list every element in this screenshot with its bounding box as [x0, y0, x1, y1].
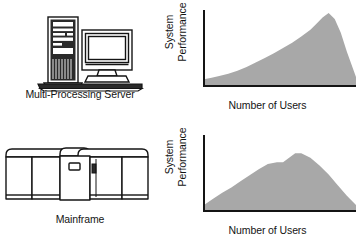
area-series-server — [204, 13, 356, 86]
device-pane-mainframe: Mainframe — [0, 125, 160, 249]
chart-mainframe: System Performance Number of Users — [160, 125, 359, 249]
diagram-row-server: Multi-Processing Server System Performan… — [0, 0, 359, 124]
diagram-row-mainframe: Mainframe System Performance Number of U… — [0, 125, 359, 249]
mainframe-cabinets-icon — [0, 125, 160, 225]
y-axis-label-line1: System — [163, 0, 176, 75]
chart-plot-area-server — [190, 4, 356, 96]
area-series-mainframe — [204, 153, 356, 211]
y-axis-label-line2: Performance — [176, 0, 189, 75]
y-axis-label-line2: Performance — [176, 114, 189, 200]
y-axis-label-line1: System — [163, 114, 176, 200]
chart-x-axis-label-mainframe: Number of Users — [180, 224, 355, 236]
device-pane-server: Multi-Processing Server — [0, 0, 160, 124]
chart-plot-area-mainframe — [190, 129, 356, 221]
comparison-diagram: Multi-Processing Server System Performan… — [0, 0, 359, 249]
device-caption-mainframe: Mainframe — [0, 213, 160, 225]
tower-server-and-monitor-icon — [0, 0, 160, 100]
chart-server: System Performance Number of Users — [160, 0, 359, 124]
chart-x-axis-label-server: Number of Users — [180, 99, 355, 111]
chart-y-axis-label-server: System Performance — [163, 0, 191, 75]
chart-y-axis-label-mainframe: System Performance — [163, 114, 191, 200]
device-caption-server: Multi-Processing Server — [0, 88, 160, 100]
